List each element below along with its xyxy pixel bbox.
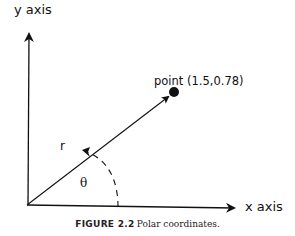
point-label: point (1.5,0.78) — [154, 74, 244, 88]
figure-caption: FIGURE 2.2 Polar coordinates. — [0, 219, 295, 229]
y-axis-line — [28, 34, 29, 205]
angle-label: θ — [80, 176, 87, 190]
radius-vector — [27, 97, 168, 205]
radius-label: r — [60, 139, 65, 153]
angle-arc-arrowhead — [82, 147, 90, 157]
x-axis-line — [27, 205, 234, 208]
point-marker — [169, 87, 179, 97]
polar-coordinates-figure: y axis x axis point (1.5,0.78) r θ FIGUR… — [0, 0, 295, 236]
caption-label: FIGURE 2.2 — [75, 219, 134, 229]
caption-text: Polar coordinates. — [137, 219, 220, 229]
y-axis-label: y axis — [14, 2, 52, 17]
angle-arc — [87, 152, 118, 207]
x-axis-label: x axis — [245, 199, 283, 214]
